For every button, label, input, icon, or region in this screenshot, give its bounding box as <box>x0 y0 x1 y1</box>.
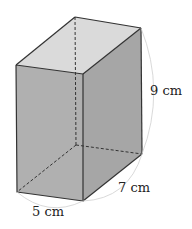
depth-label: 7 cm <box>118 180 150 195</box>
front-face <box>16 65 83 201</box>
width-label: 5 cm <box>32 204 64 219</box>
rectangular-prism-diagram: 9 cm 7 cm 5 cm <box>0 0 192 229</box>
height-label: 9 cm <box>150 83 182 98</box>
